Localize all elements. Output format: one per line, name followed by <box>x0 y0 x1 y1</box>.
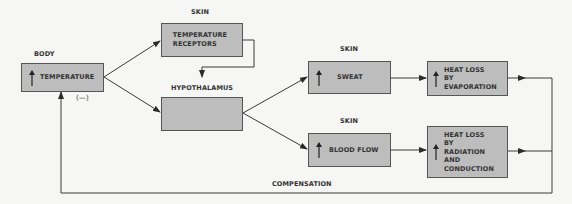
box-label-line2: BY <box>444 139 494 147</box>
box-label-line1: HEAT LOSS <box>444 66 497 74</box>
up-arrow-icon <box>29 70 35 86</box>
label-compensation: COMPENSATION <box>272 180 332 188</box>
box-temperature-receptors: TEMPERATURE RECEPTORS <box>161 23 243 57</box>
box-label-line2: RECEPTORS <box>173 40 227 49</box>
box-label: BLOOD FLOW <box>329 146 379 155</box>
box-label: TEMPERATURE <box>40 73 94 82</box>
label-body: BODY <box>34 50 55 58</box>
box-label-line1: TEMPERATURE <box>173 31 227 40</box>
box-label-line1: HEAT LOSS <box>444 131 494 139</box>
label-skin-blood: SKIN <box>340 117 358 125</box>
box-body-temperature: TEMPERATURE <box>21 63 104 92</box>
up-arrow-icon <box>316 70 322 86</box>
box-blood-flow: BLOOD FLOW <box>308 133 391 167</box>
arrow-temp-to-hypothalamus <box>104 77 160 112</box>
arrow-hypothalamus-to-sweat <box>243 77 307 113</box>
box-label-line3: RADIATION <box>444 148 494 156</box>
box-sweat: SWEAT <box>308 61 391 94</box>
box-heat-loss-evaporation: HEAT LOSS BY EVAPORATION <box>427 61 508 96</box>
up-arrow-icon <box>316 142 322 158</box>
up-arrow-icon <box>433 144 439 160</box>
label-skin-receptors: SKIN <box>191 8 209 16</box>
label-negative-sign: (—) <box>76 94 89 102</box>
box-label-line4: AND <box>444 156 494 164</box>
box-label: SWEAT <box>337 73 363 82</box>
arrow-hypothalamus-to-bloodflow <box>243 113 307 149</box>
box-label-line3: EVAPORATION <box>444 83 497 91</box>
label-skin-sweat: SKIN <box>340 45 358 53</box>
box-heat-loss-radiation: HEAT LOSS BY RADIATION AND CONDUCTION <box>427 126 508 178</box>
box-label-line2: BY <box>444 74 497 82</box>
box-hypothalamus <box>161 97 243 131</box>
box-label-line5: CONDUCTION <box>444 165 494 173</box>
up-arrow-icon <box>433 71 439 87</box>
arrow-temp-to-receptors <box>104 41 160 77</box>
label-hypothalamus: HYPOTHALAMUS <box>171 84 233 92</box>
